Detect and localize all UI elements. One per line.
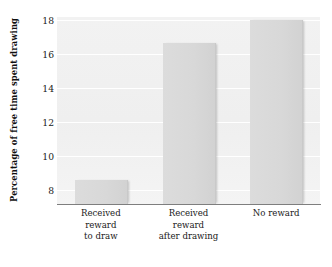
x-category-label-line: after drawing [145, 231, 233, 243]
bar-2 [163, 43, 216, 205]
x-category-label-line: to draw [57, 231, 145, 243]
x-category-label-line: reward [145, 220, 233, 232]
x-axis-category-labels: Receivedrewardto drawReceivedrewardafter… [57, 208, 321, 264]
x-category-label: Receivedrewardto draw [57, 208, 145, 243]
x-category-label: No reward [232, 208, 320, 220]
x-axis-line [57, 204, 321, 205]
y-tick-label: 8 [18, 186, 54, 195]
bar-chart: Percentage of free time spent drawing 81… [0, 0, 332, 267]
y-tick-label: 14 [18, 84, 54, 93]
y-tick-label: 18 [18, 16, 54, 25]
x-category-label-line: Received [145, 208, 233, 220]
y-tick-label: 16 [18, 50, 54, 59]
y-axis-tick-labels: 81012141618 [12, 0, 54, 267]
bar-1 [75, 180, 128, 204]
y-tick-label: 10 [18, 152, 54, 161]
x-category-label: Receivedrewardafter drawing [145, 208, 233, 243]
plot-area [57, 17, 320, 204]
x-category-label-line: reward [57, 220, 145, 232]
x-category-label-line: No reward [232, 208, 320, 220]
y-tick-label: 12 [18, 118, 54, 127]
x-category-label-line: Received [57, 208, 145, 220]
bar-3 [250, 20, 303, 204]
